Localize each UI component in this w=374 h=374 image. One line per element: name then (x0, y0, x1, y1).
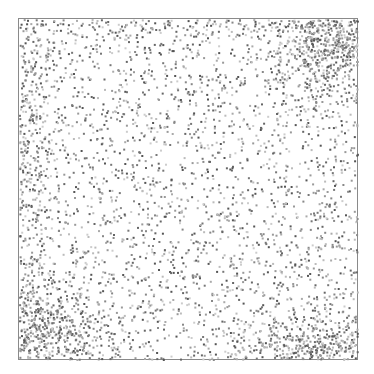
image-frame (18, 18, 358, 360)
stipple-dot-field (19, 19, 359, 361)
